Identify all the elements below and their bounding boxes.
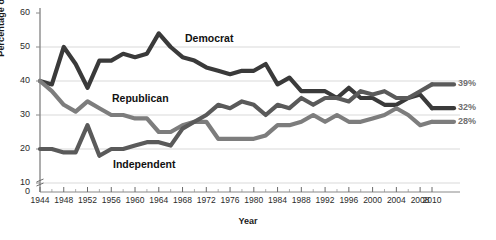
plot-area [0,0,496,240]
series-line-republican [40,81,432,139]
line-chart: Percentage of Voters Year 0102030405060 … [0,0,496,240]
series-line-democrat [40,33,432,108]
